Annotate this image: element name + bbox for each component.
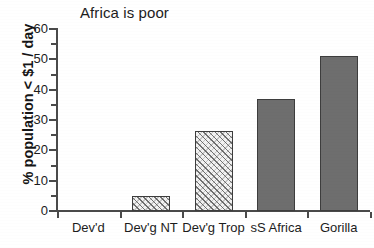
x-tick-label: Dev'g NT — [124, 220, 178, 235]
y-tick-major — [49, 119, 57, 121]
y-tick-label: 0 — [41, 204, 48, 217]
y-tick-major — [49, 28, 57, 30]
y-tick-major — [49, 149, 57, 151]
chart-title: Africa is poor — [80, 4, 169, 21]
x-tick-label: Gorilla — [320, 220, 358, 235]
x-tick — [57, 212, 59, 218]
bar — [320, 56, 358, 211]
bar — [257, 99, 295, 211]
x-tick — [370, 212, 372, 218]
y-tick-label: 20 — [34, 143, 48, 156]
y-tick-major — [49, 180, 57, 182]
x-tick — [245, 212, 247, 218]
y-tick-label: 10 — [34, 174, 48, 187]
x-tick-label: Dev'd — [72, 220, 105, 235]
y-tick-major — [49, 89, 57, 91]
x-tick — [307, 212, 309, 218]
bar-chart: Africa is poor % population < $1 / day 0… — [0, 0, 374, 248]
y-tick-label: 30 — [34, 113, 48, 126]
y-tick-label: 40 — [34, 83, 48, 96]
y-tick-label: 50 — [34, 52, 48, 65]
y-tick-major — [49, 58, 57, 60]
x-tick-label: sS Africa — [250, 220, 301, 235]
x-tick — [120, 212, 122, 218]
y-tick-major — [49, 210, 57, 212]
bar — [132, 196, 170, 211]
x-tick-label: Dev'g Trop — [182, 220, 244, 235]
y-tick-label: 60 — [34, 22, 48, 35]
x-tick — [182, 212, 184, 218]
bar — [195, 131, 233, 211]
plot-area — [57, 29, 370, 211]
